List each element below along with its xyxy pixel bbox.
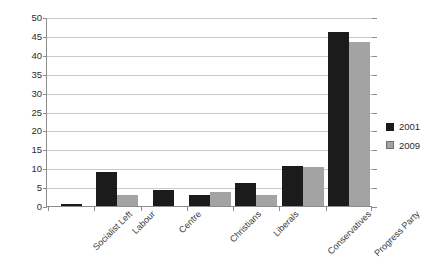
y-tick-mark-right	[372, 94, 377, 95]
bar-2001-labour	[96, 172, 117, 206]
y-tick-mark	[43, 131, 47, 132]
bar-2009-liberals	[256, 195, 277, 206]
y-tick-label: 15	[2, 146, 42, 156]
y-tick-label: 20	[2, 127, 42, 137]
legend-swatch-2001	[386, 123, 394, 131]
y-tick-mark	[43, 188, 47, 189]
y-tick-mark-right	[372, 37, 377, 38]
bar-2001-centre	[153, 190, 174, 206]
bar-group	[233, 18, 279, 206]
y-tick-mark	[43, 37, 47, 38]
y-tick-label: 40	[2, 51, 42, 61]
bar-2009-christians	[210, 192, 231, 206]
bar-2009-progress-party	[349, 42, 370, 206]
x-axis-label-centre: Centre	[177, 209, 203, 235]
y-tick-mark	[43, 94, 47, 95]
y-tick-mark	[43, 169, 47, 170]
y-tick-mark	[43, 75, 47, 76]
y-tick-label: 35	[2, 70, 42, 80]
bar-chart: 05101520253035404550 Socialist LeftLabou…	[0, 0, 440, 275]
y-tick-label: 10	[2, 164, 42, 174]
legend-swatch-2009	[386, 141, 394, 149]
bar-group	[94, 18, 140, 206]
y-tick-mark-right	[372, 56, 377, 57]
x-axis-label-socialist-left: Socialist Left	[91, 209, 134, 252]
x-axis-category-labels: Socialist LeftLabourCentreChristiansLibe…	[47, 209, 373, 273]
bar-2001-conservatives	[282, 166, 303, 206]
y-tick-mark-right	[372, 169, 377, 170]
y-tick-label: 0	[2, 202, 42, 212]
legend-label-2001: 2001	[399, 122, 420, 132]
y-tick-mark	[43, 207, 47, 208]
legend-item-2009: 2009	[386, 141, 420, 151]
bar-groups	[48, 18, 372, 206]
plot-area	[46, 18, 372, 207]
bar-group	[48, 18, 94, 206]
bar-group	[326, 18, 372, 206]
bar-2001-liberals	[235, 183, 256, 206]
bar-2009-conservatives	[303, 167, 324, 206]
y-tick-mark-right	[372, 18, 377, 19]
x-axis-label-christians: Christians	[227, 209, 262, 244]
y-tick-mark-right	[372, 131, 377, 132]
x-axis-label-conservatives: Conservatives	[325, 209, 372, 256]
x-axis-label-progress-party: Progress Party	[373, 209, 422, 258]
bar-group	[187, 18, 233, 206]
y-tick-label: 50	[2, 13, 42, 23]
x-axis-label-labour: Labour	[131, 209, 158, 236]
y-tick-mark-right	[372, 113, 377, 114]
y-tick-label: 25	[2, 108, 42, 118]
y-tick-mark	[43, 150, 47, 151]
bar-2001-christians	[189, 195, 210, 206]
y-tick-label: 30	[2, 89, 42, 99]
bar-2009-labour	[117, 195, 138, 206]
legend-label-2009: 2009	[399, 141, 420, 151]
y-tick-mark-right	[372, 207, 377, 208]
y-tick-mark	[43, 56, 47, 57]
y-tick-mark	[43, 113, 47, 114]
y-axis: 05101520253035404550	[0, 18, 42, 207]
legend: 2001 2009	[386, 122, 420, 159]
y-tick-label: 45	[2, 32, 42, 42]
y-tick-mark	[43, 18, 47, 19]
bar-group	[279, 18, 325, 206]
y-tick-mark-right	[372, 150, 377, 151]
bar-2001-progress-party	[328, 32, 349, 206]
y-tick-label: 5	[2, 183, 42, 193]
y-tick-mark-right	[372, 188, 377, 189]
bar-group	[141, 18, 187, 206]
legend-item-2001: 2001	[386, 122, 420, 132]
y-tick-mark-right	[372, 75, 377, 76]
bar-2001-socialist-left	[61, 204, 82, 206]
x-axis-label-liberals: Liberals	[271, 209, 300, 238]
